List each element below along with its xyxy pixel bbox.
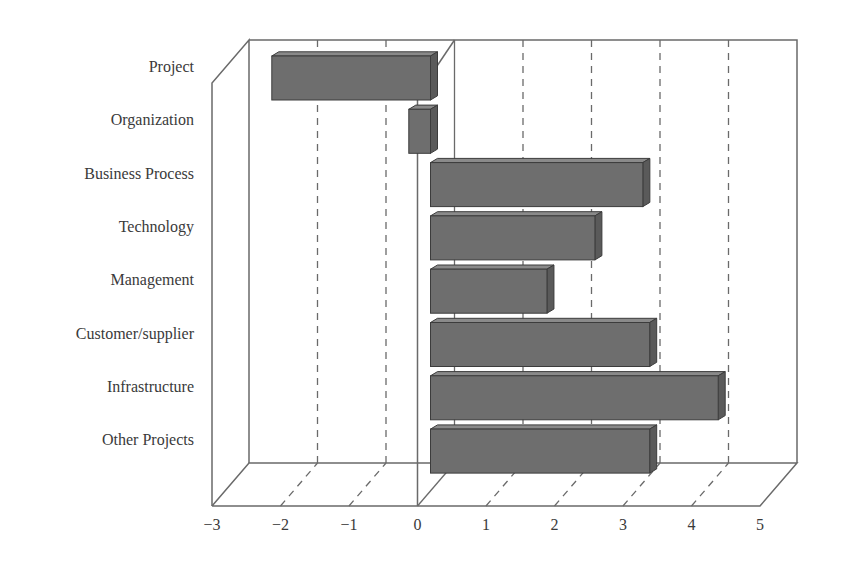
x-tick-label: 4 (688, 516, 696, 534)
bars (272, 52, 725, 473)
bar-top (431, 425, 657, 429)
bar-top (431, 318, 657, 322)
bar-top (431, 212, 602, 216)
bar-side (595, 212, 602, 260)
bar-front (431, 376, 719, 420)
bar-front (431, 429, 650, 473)
bar (431, 158, 650, 206)
bar-side (650, 425, 657, 473)
x-tick-label: 5 (756, 516, 764, 534)
x-tick-label: 0 (414, 516, 422, 534)
bar-front (431, 163, 643, 207)
category-label: Customer/supplier (76, 325, 194, 343)
bar-front (272, 56, 431, 100)
category-label: Other Projects (102, 431, 194, 449)
left-wall (212, 40, 249, 506)
bar-top (431, 265, 554, 269)
category-label: Business Process (84, 165, 194, 183)
bar-side (431, 52, 438, 100)
bar-front (431, 269, 547, 313)
bar (272, 52, 438, 100)
bar-top (431, 158, 650, 162)
category-label: Organization (111, 111, 194, 129)
floor-grid-line (281, 463, 318, 506)
bar-side (431, 105, 438, 153)
x-tick-label: 3 (619, 516, 627, 534)
bar (431, 372, 726, 420)
bar-front (409, 109, 431, 153)
bar-top (272, 52, 438, 56)
bar (431, 212, 602, 260)
bar-top (431, 372, 726, 376)
category-label: Project (149, 58, 194, 76)
x-tick-label: −3 (203, 516, 220, 534)
category-label: Management (110, 271, 194, 289)
bar-side (643, 158, 650, 206)
bar-side (547, 265, 554, 313)
bar-side (650, 318, 657, 366)
bar (431, 318, 657, 366)
bar-front (431, 216, 595, 260)
floor-grid-line (349, 463, 386, 506)
x-tick-label: 2 (551, 516, 559, 534)
x-tick-label: 1 (482, 516, 490, 534)
bar-front (431, 323, 650, 367)
bar (409, 105, 438, 153)
bar (431, 265, 554, 313)
x-tick-label: −1 (340, 516, 357, 534)
floor-grid-line (692, 463, 729, 506)
bar (431, 425, 657, 473)
x-tick-label: −2 (272, 516, 289, 534)
category-label: Infrastructure (107, 378, 194, 396)
bar-side (718, 372, 725, 420)
category-label: Technology (119, 218, 194, 236)
